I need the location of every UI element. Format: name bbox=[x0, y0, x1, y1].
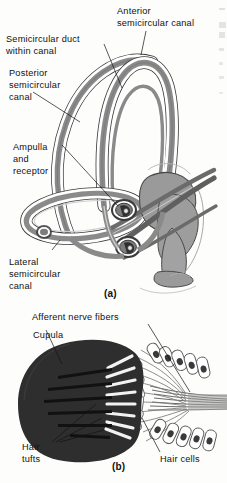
duct-label-line2: within canal bbox=[5, 46, 56, 56]
posterior-label-line1: Posterior bbox=[9, 68, 48, 78]
ampulla-label-line1: Ampulla bbox=[13, 142, 48, 152]
hair-tufts-label-line1: Hair bbox=[22, 442, 40, 452]
lateral-label-line1: Lateral bbox=[9, 257, 39, 267]
anterior-label-line1: Anterior bbox=[117, 6, 151, 16]
anterior-label-line2: semicircular canal bbox=[117, 18, 194, 28]
posterior-label-line3: canal bbox=[9, 92, 32, 102]
panel-b-diagram bbox=[18, 340, 227, 462]
lateral-label-line3: canal bbox=[9, 281, 32, 291]
ampulla-label-line3: receptor bbox=[13, 166, 48, 176]
posterior-label-line2: semicircular bbox=[9, 80, 60, 90]
lateral-label-line2: semicircular bbox=[9, 269, 60, 279]
inner-ear-figure: Anterior semicircular canal Semicircular… bbox=[0, 0, 227, 483]
ampulla-lateral-shape bbox=[36, 225, 52, 239]
ampulla-label-line2: and bbox=[13, 154, 29, 164]
panel-a-caption: (a) bbox=[104, 288, 117, 299]
hair-tufts-label-line2: tufts bbox=[22, 454, 41, 464]
duct-label-line1: Semicircular duct bbox=[6, 34, 80, 44]
panel-b-caption: (b) bbox=[112, 461, 125, 472]
afferent-nerve-fibers-label: Afferent nerve fibers bbox=[32, 312, 119, 322]
hair-cells-label: Hair cells bbox=[160, 454, 200, 464]
cupula-label: Cupula bbox=[33, 330, 64, 340]
